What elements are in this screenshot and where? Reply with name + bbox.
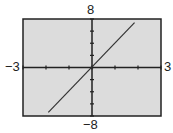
plot-area: [0, 0, 173, 133]
